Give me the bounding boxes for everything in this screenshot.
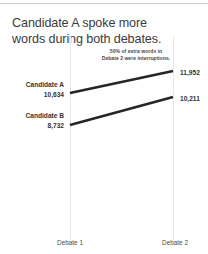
series-start-value-candidate-a: 10,634 <box>2 90 64 100</box>
series-name-candidate-a: Candidate A <box>2 80 64 90</box>
series-start-value-candidate-b: 8,732 <box>2 121 64 131</box>
series-start-label-candidate-b: Candidate B 8,732 <box>2 111 64 130</box>
plot-area: 50% of extra words in Debate 2 were inte… <box>0 0 208 254</box>
series-end-value-candidate-a: 11,952 <box>180 68 208 77</box>
chart-annotation: 50% of extra words in Debate 2 were inte… <box>86 48 186 63</box>
series-name-candidate-b: Candidate B <box>2 111 64 121</box>
chart-annotation-line-2: Debate 2 were interruptions. <box>86 55 186 62</box>
chart-screenshot: Candidate A spoke more words during both… <box>0 0 208 254</box>
x-axis-tick-debate-1: Debate 1 <box>38 239 102 246</box>
series-start-label-candidate-a: Candidate A 10,634 <box>2 80 64 99</box>
x-axis-tick-debate-2: Debate 2 <box>143 239 207 246</box>
chart-annotation-line-1: 50% of extra words in <box>86 48 186 55</box>
series-line-candidate-b <box>70 97 173 125</box>
series-line-candidate-a <box>70 71 173 93</box>
series-end-value-candidate-b: 10,211 <box>180 94 208 103</box>
